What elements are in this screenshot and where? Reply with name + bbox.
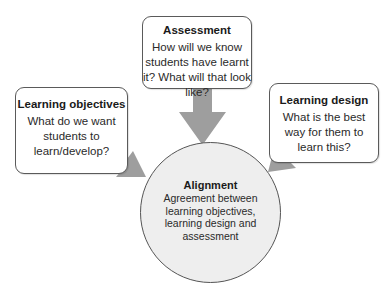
- alignment-body: Agreement between learning objectives, l…: [141, 192, 280, 242]
- assessment-body: How will we know students have learnt it…: [143, 40, 251, 100]
- learning-objectives-body: What do we want students to learn/develo…: [16, 114, 127, 159]
- assessment-title: Assessment: [143, 23, 251, 37]
- learning-objectives-box: Learning objectives What do we want stud…: [15, 87, 128, 174]
- learning-objectives-title: Learning objectives: [16, 97, 127, 111]
- assessment-box: Assessment How will we know students hav…: [142, 16, 252, 89]
- learning-design-body: What is the best way for them to learn t…: [270, 110, 378, 155]
- alignment-title: Alignment: [141, 179, 280, 192]
- learning-design-title: Learning design: [270, 93, 378, 107]
- learning-design-box: Learning design What is the best way for…: [269, 83, 379, 163]
- alignment-circle: Alignment Agreement between learning obj…: [140, 142, 281, 283]
